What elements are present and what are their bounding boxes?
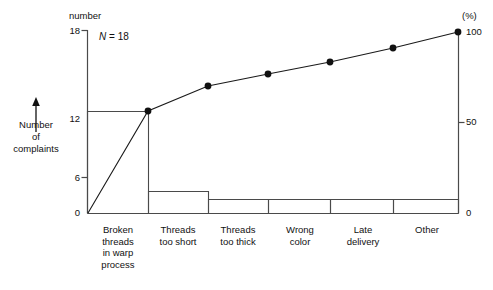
chart-canvas bbox=[0, 0, 493, 290]
bar-group bbox=[88, 112, 459, 214]
cumulative-point-3 bbox=[327, 59, 334, 66]
cumulative-point-4 bbox=[390, 45, 397, 52]
bar-2 bbox=[209, 200, 269, 214]
bar-1 bbox=[149, 192, 209, 214]
bar-3 bbox=[269, 200, 331, 214]
cumulative-markers bbox=[145, 29, 462, 115]
cumulative-point-1 bbox=[205, 83, 212, 90]
cumulative-point-0 bbox=[145, 108, 152, 115]
bar-5 bbox=[394, 200, 459, 214]
cumulative-point-2 bbox=[265, 71, 272, 78]
cumulative-line bbox=[88, 32, 458, 213]
pareto-chart-figure: number (%) N = 18 18 12 6 0 100 50 0 Num… bbox=[0, 0, 493, 290]
cumulative-point-5 bbox=[455, 29, 462, 36]
up-arrow-icon bbox=[32, 97, 40, 132]
bar-4 bbox=[331, 200, 394, 214]
left-axis-ticks bbox=[82, 31, 88, 178]
